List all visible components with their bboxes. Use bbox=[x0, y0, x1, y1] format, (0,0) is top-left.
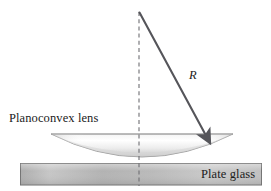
planoconvex-lens bbox=[51, 134, 233, 157]
figure-canvas bbox=[0, 0, 271, 191]
radius-label: R bbox=[189, 68, 197, 83]
newtons-rings-figure: Planoconvex lens Plate glass R bbox=[0, 0, 271, 191]
plate-glass-label: Plate glass bbox=[201, 167, 255, 182]
planoconvex-lens-label: Planoconvex lens bbox=[9, 111, 98, 126]
radius-arrow bbox=[140, 13, 211, 144]
